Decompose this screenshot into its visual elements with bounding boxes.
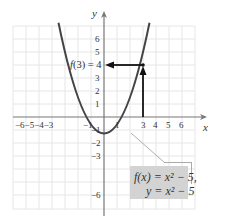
x-tick-neg1: −1 — [83, 120, 93, 130]
callout-leader — [131, 133, 165, 163]
x-tick-3: 3 — [141, 120, 146, 130]
y-tick-3: 3 — [95, 73, 100, 83]
f3-label: f(3) = 4 — [70, 59, 102, 71]
y-tick-5: 5 — [95, 47, 100, 57]
x-tick-6: 6 — [179, 120, 184, 130]
x-ticks-negative: −6−5−4−3 — [15, 120, 54, 130]
x-tick-1: 1 — [115, 120, 120, 130]
callout-frame — [164, 162, 192, 163]
y-tick-neg6: −6 — [91, 190, 101, 200]
x-tick-5: 5 — [166, 120, 171, 130]
y-tick-6: 6 — [95, 34, 100, 44]
y-tick-neg2: −2 — [91, 138, 101, 148]
equation-line-2: y = x² − 5 — [145, 184, 194, 198]
x-axis-label: x — [202, 121, 208, 133]
y-tick-2: 2 — [95, 86, 100, 96]
y-axis-label: y — [91, 7, 97, 19]
equation-line-1: f(x) = x² − 5, — [134, 170, 197, 184]
y-tick-neg3: −3 — [91, 151, 101, 161]
x-tick-4: 4 — [153, 120, 158, 130]
y-tick-1: 1 — [95, 99, 100, 109]
up-arrow-icon — [140, 66, 147, 75]
left-arrow-icon — [105, 62, 114, 69]
point-3-4 — [141, 63, 145, 67]
graph: y x 6 5 3 2 1 −1 −2 −3 −6 f(3) = 4 −6−5−… — [0, 0, 225, 223]
